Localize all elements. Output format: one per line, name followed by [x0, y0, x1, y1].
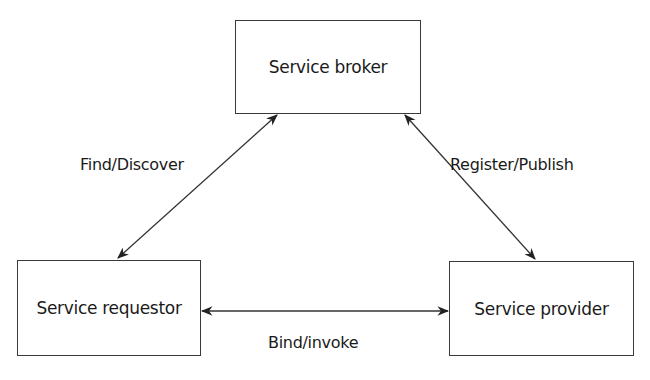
- service-broker-box: Service broker: [235, 20, 421, 114]
- service-provider-label: Service provider: [474, 299, 608, 319]
- bind-invoke-label: Bind/invoke: [268, 333, 358, 352]
- service-requestor-label: Service requestor: [36, 298, 181, 318]
- service-broker-label: Service broker: [269, 57, 388, 77]
- find-discover-label: Find/Discover: [80, 155, 184, 174]
- register-publish-label: Register/Publish: [450, 155, 574, 174]
- register-publish-arrow: [405, 115, 535, 259]
- service-provider-box: Service provider: [449, 261, 634, 356]
- service-requestor-box: Service requestor: [17, 260, 201, 356]
- find-discover-arrow: [118, 115, 277, 258]
